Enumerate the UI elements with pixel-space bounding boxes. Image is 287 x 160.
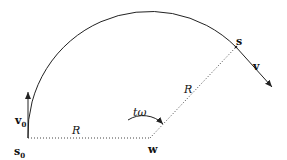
- label-radius-diagonal: R: [184, 84, 192, 95]
- label-s: s: [236, 36, 242, 47]
- label-s0: s0: [14, 146, 25, 159]
- trajectory-arc: [28, 11, 236, 138]
- label-w: w: [148, 144, 157, 155]
- label-radius-bottom: R: [72, 125, 80, 136]
- label-v0: v0: [15, 115, 26, 128]
- radius-line-diagonal: [150, 47, 236, 138]
- diagram-canvas: [0, 0, 287, 160]
- label-v: v: [253, 61, 259, 72]
- label-angle: tω: [133, 107, 146, 118]
